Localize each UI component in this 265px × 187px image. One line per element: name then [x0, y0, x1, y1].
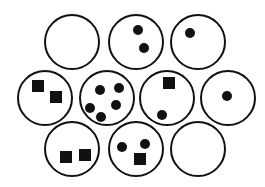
dot-icon — [96, 112, 106, 122]
circle-set-r3c1 — [45, 122, 99, 176]
dot-icon — [117, 142, 127, 152]
circle-set-r2c2 — [80, 71, 134, 125]
dot-icon — [222, 91, 232, 101]
dot-icon — [85, 103, 95, 113]
circle-set-r1c3 — [171, 15, 225, 69]
square-icon — [163, 77, 175, 89]
square-icon — [60, 151, 72, 163]
dot-icon — [111, 100, 121, 110]
circle-grid-diagram — [0, 0, 265, 187]
dot-icon — [95, 85, 105, 95]
square-icon — [32, 80, 44, 92]
dot-icon — [139, 43, 149, 53]
circle-set-r3c3 — [171, 122, 225, 176]
circle-outline — [80, 71, 134, 125]
dot-icon — [157, 110, 167, 120]
square-icon — [79, 149, 91, 161]
circle-set-r3c2 — [109, 122, 163, 176]
square-icon — [50, 91, 62, 103]
dot-icon — [133, 25, 143, 35]
circle-outline — [171, 15, 225, 69]
circle-set-r2c4 — [201, 71, 255, 125]
diagram-canvas — [0, 0, 265, 187]
circle-set-r2c1 — [18, 71, 72, 125]
circle-outline — [18, 71, 72, 125]
circle-outline — [109, 122, 163, 176]
circle-outline — [171, 122, 225, 176]
circle-outline — [45, 15, 99, 69]
dot-icon — [185, 28, 195, 38]
circle-set-r1c1 — [45, 15, 99, 69]
square-icon — [134, 153, 146, 165]
dot-icon — [114, 83, 124, 93]
circle-outline — [109, 15, 163, 69]
circle-set-r2c3 — [140, 71, 194, 125]
circle-set-r1c2 — [109, 15, 163, 69]
dot-icon — [140, 139, 150, 149]
